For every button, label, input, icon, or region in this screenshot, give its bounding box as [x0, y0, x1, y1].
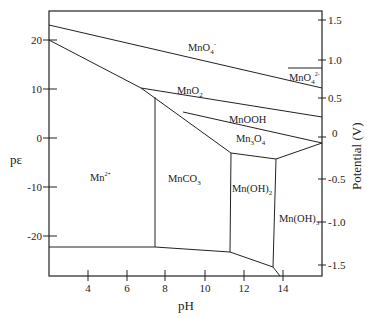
y2-tick-label: 0 — [332, 127, 338, 139]
y-tick-label: 10 — [31, 83, 43, 95]
label-mn2plus: Mn2+ — [90, 171, 112, 183]
x-tick-label: 10 — [200, 282, 212, 294]
label-mnooh: MnOOH — [229, 114, 267, 125]
y2-axis-title: Potential (V) — [349, 122, 364, 190]
boundary-mnco3-mnoh2 — [230, 153, 231, 252]
label-mno2: MnO2 — [177, 85, 203, 99]
boundary-mnoh2-mnoh3 — [273, 159, 276, 267]
x-tick-label: 4 — [85, 282, 91, 294]
boundary-mn2-mno2 — [49, 40, 141, 88]
y-tick-label: -20 — [27, 230, 42, 242]
y-axis-left: 20 10 0 -10 -20 pε — [10, 34, 57, 242]
y-tick-label: 0 — [37, 132, 43, 144]
x-tick-label: 14 — [278, 282, 290, 294]
y-axis-right: 1.5 1.0 0.5 0 -0.5 -1.0 -1.5 Potential (… — [318, 14, 364, 271]
y-tick-label: 20 — [31, 34, 43, 46]
y2-tick-label: 0.5 — [328, 92, 342, 104]
x-axis-title: pH — [178, 298, 194, 313]
x-tick-label: 8 — [162, 282, 168, 294]
y2-tick-label: 1.0 — [328, 54, 342, 66]
y2-tick-label: -0.5 — [328, 173, 346, 185]
eh-ph-diagram: 20 10 0 -10 -20 pε 1.5 1.0 0.5 0 -0.5 -1… — [0, 0, 367, 318]
boundary-mn3o4-mnoh3 — [276, 143, 322, 159]
y2-tick-label: -1.5 — [328, 259, 346, 271]
label-mnoh2: Mn(OH)2 — [232, 183, 273, 197]
x-tick-label: 12 — [239, 282, 250, 294]
label-mnco3: MnCO3 — [168, 173, 201, 187]
label-mno4: MnO4- — [188, 40, 217, 56]
y-axis-title: pε — [10, 152, 23, 167]
label-mn3o4: Mn3O4 — [236, 133, 266, 147]
boundary-mn3o4-mnoh2 — [231, 153, 276, 159]
plot-frame — [49, 11, 322, 276]
region-labels: MnO4- MnO42- MnO2 MnOOH Mn3O4 Mn2+ MnCO3… — [90, 40, 320, 227]
y2-tick-label: 1.5 — [328, 14, 342, 26]
boundary-mno4-mno2 — [49, 25, 322, 88]
y2-tick-label: -1.0 — [328, 216, 346, 228]
y-tick-label: -10 — [27, 181, 42, 193]
x-tick-label: 6 — [124, 282, 130, 294]
phase-boundaries — [49, 25, 322, 276]
boundary-mno2-mnooh — [141, 88, 322, 117]
label-mnoh3: Mn(OH)3 — [279, 213, 320, 227]
